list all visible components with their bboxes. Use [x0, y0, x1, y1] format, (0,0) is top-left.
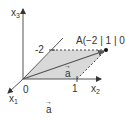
x1-axis — [8, 79, 23, 93]
x1-axis-label: x1 — [9, 93, 18, 105]
origin-label: 0 — [23, 84, 29, 95]
x3-axis-label: x3 — [11, 7, 20, 19]
point-a — [104, 48, 108, 52]
tick-label-x1-minus-2: -2 — [35, 44, 44, 55]
vector-a-label: a — [65, 68, 71, 79]
tick-label-x2-1: 1 — [72, 83, 78, 94]
x2-axis-label: x2 — [91, 83, 100, 95]
coordinate-diagram: x3 x2 x1 0 -2 1 A(−2 | 1 | 0) → a → a — [0, 0, 125, 124]
point-a-label: A(−2 | 1 | 0) — [76, 35, 125, 46]
caption-label: a — [46, 104, 52, 115]
